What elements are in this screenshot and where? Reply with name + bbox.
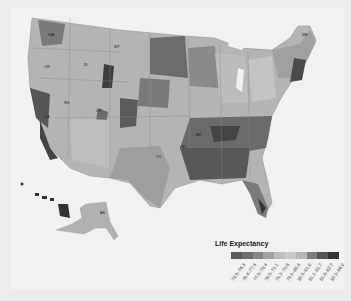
legend-swatch: [296, 252, 307, 259]
state-label: WA: [48, 32, 55, 37]
legend-swatch: [307, 252, 318, 259]
legend-swatch: [242, 252, 253, 259]
legend-swatch: [263, 252, 274, 259]
legend-swatch: [285, 252, 296, 259]
state-label: TX: [156, 154, 161, 159]
legend-swatch: [231, 252, 242, 259]
state-label: AK: [100, 210, 106, 215]
state-label: MT: [114, 44, 120, 49]
legend-color-bar: [231, 252, 339, 259]
hawaii-shape: [21, 183, 71, 219]
legend-title: Life Expectancy: [215, 240, 268, 247]
state-label: UT: [96, 108, 102, 113]
state-label: NV: [64, 100, 70, 105]
legend-swatch: [317, 252, 328, 259]
state-label: CA: [44, 114, 50, 119]
legend-swatch: [253, 252, 264, 259]
state-label: ME: [302, 32, 308, 37]
state-label: AR: [196, 132, 202, 137]
state-label: OR: [44, 64, 50, 69]
legend-swatch: [328, 252, 339, 259]
state-label: OK: [180, 144, 186, 149]
legend-swatch: [274, 252, 285, 259]
state-label: ID: [84, 62, 88, 67]
map-legend: Life Expectancy 73.5–76.3 76.4–77.4 77.5…: [213, 240, 345, 290]
